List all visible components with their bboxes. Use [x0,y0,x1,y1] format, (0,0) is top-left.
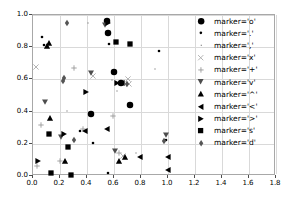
legend-item-label: marker='x' [214,53,256,62]
data-point-< [133,150,147,164]
y-tick-label: 1.0 [6,10,28,18]
y-tick-mark [29,46,32,47]
legend-item-label: marker='.' [214,29,254,38]
legend-item-label: marker='+' [214,65,257,74]
legend-marker-o-icon [188,14,214,28]
legend: marker='o'marker='.'marker=','marker='x'… [186,12,281,152]
legend-item-label: marker=',' [214,41,254,50]
y-tick-label: 0.6 [6,74,28,82]
x-tick-label: 0.8 [134,179,145,187]
data-point-, [87,22,90,25]
x-tick-label: 1.2 [188,179,199,187]
data-point-v [85,66,98,79]
legend-item-o[interactable]: marker='o' [188,15,279,27]
data-point-> [101,16,115,30]
y-tick-mark [29,111,32,112]
legend-item-label: marker='v' [214,78,256,87]
data-point-> [32,154,46,168]
y-tick-mark [29,143,32,144]
data-point-. [90,140,96,146]
data-point-+ [107,110,119,122]
x-tick-label: 0.0 [26,179,37,187]
data-point-. [156,48,162,54]
x-tick-label: 0.4 [80,179,91,187]
x-tick-label: 1.0 [161,179,172,187]
data-point-^ [40,39,54,53]
x-tick-label: 0.2 [53,179,64,187]
data-point-d [57,71,71,85]
legend-marker-x-icon [188,52,214,63]
legend-item-label: marker='d' [214,138,256,147]
legend-item-.[interactable]: marker='.' [188,27,279,39]
x-tick-label: 0.6 [107,179,118,187]
data-point-. [105,170,111,176]
legend-marker-,-icon [188,44,214,47]
scatter-plot-figure: 0.00.20.40.60.81.01.21.41.61.8 0.00.20.4… [0,0,283,199]
data-point-d [60,16,74,30]
legend-item->[interactable]: marker='>' [188,113,279,125]
x-tick-mark [221,175,222,178]
data-point-s [42,127,55,140]
x-tick-label: 1.8 [269,179,280,187]
x-tick-mark [167,175,168,178]
data-point-, [66,109,69,112]
legend-item-x[interactable]: marker='x' [188,52,279,64]
legend-item-^[interactable]: marker='^' [188,88,279,100]
x-tick-mark [194,175,195,178]
data-point-< [161,163,175,177]
data-point-d [67,133,81,147]
x-tick-mark [32,175,33,178]
data-point-s [109,36,122,49]
y-tick-mark [29,78,32,79]
data-point-o [123,98,137,112]
legend-item-label: marker='<' [214,102,257,111]
legend-marker-d-icon [188,136,214,150]
x-tick-mark [275,175,276,178]
y-tick-mark [29,14,32,15]
data-point-> [79,85,93,99]
legend-item-d[interactable]: marker='d' [188,137,279,149]
x-tick-mark [113,175,114,178]
legend-item-label: marker='s' [214,126,255,135]
legend-item-v[interactable]: marker='v' [188,76,279,88]
data-point-^ [118,151,132,165]
data-point-x [30,61,41,72]
legend-marker-.-icon [188,30,214,36]
x-tick-mark [59,175,60,178]
legend-item-label: marker='^' [214,90,257,99]
x-tick-mark [140,175,141,178]
data-point-^ [43,111,57,125]
y-tick-label: 0.2 [6,139,28,147]
data-point-s [123,37,136,50]
data-point-s [45,167,58,180]
data-point-d [120,77,134,91]
y-tick-label: 0.0 [6,171,28,179]
y-tick-label: 0.8 [6,42,28,50]
x-tick-mark [248,175,249,178]
data-point-, [154,68,157,71]
legend-item-+[interactable]: marker='+' [188,64,279,76]
legend-item-label: marker='o' [214,17,256,26]
legend-item-,[interactable]: marker=',' [188,39,279,51]
y-tick-mark [29,175,32,176]
data-point-, [115,90,118,93]
data-point-^ [58,154,72,168]
x-tick-label: 1.6 [242,179,253,187]
legend-marker-+-icon [188,64,214,76]
legend-item-<[interactable]: marker='<' [188,100,279,112]
y-tick-label: 0.4 [6,107,28,115]
data-point-v [38,95,51,108]
data-point-s [65,168,78,181]
data-point-d [157,134,171,148]
data-point-< [100,122,114,136]
x-tick-mark [86,175,87,178]
data-point-o [84,107,98,121]
x-tick-label: 1.4 [215,179,226,187]
legend-item-label: marker='>' [214,114,257,123]
